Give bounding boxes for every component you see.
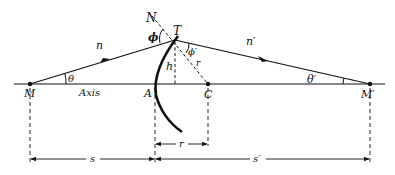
label-phi-prime: ϕ′	[188, 46, 198, 57]
refraction-diagram: N T ϕ ϕ′ r h n n′ θ θ′ M Axis A C M′ r s…	[0, 0, 395, 175]
label-phi: ϕ	[148, 31, 159, 44]
theta-prime-arc	[343, 78, 344, 84]
refracted-ray	[175, 40, 370, 84]
label-theta: θ	[68, 73, 74, 84]
label-M: M	[23, 87, 36, 100]
label-n: n	[96, 39, 103, 52]
label-s: s	[90, 153, 95, 164]
label-A: A	[143, 87, 152, 100]
label-N: N	[145, 11, 157, 25]
label-r-radius: r	[196, 58, 201, 68]
label-C: C	[204, 88, 213, 101]
label-T: T	[173, 24, 182, 38]
point-M-prime	[368, 82, 372, 86]
label-axis: Axis	[78, 87, 100, 98]
label-h: h	[166, 60, 173, 73]
label-r-dimension: r	[179, 138, 185, 149]
phi-arc	[159, 29, 163, 43]
point-M	[28, 82, 32, 86]
label-M-prime: M′	[360, 88, 375, 101]
point-C	[206, 82, 210, 86]
label-theta-prime: θ′	[307, 73, 317, 86]
theta-arc	[65, 74, 66, 84]
label-n-prime: n′	[246, 35, 256, 48]
label-s-prime: s′	[253, 153, 261, 164]
